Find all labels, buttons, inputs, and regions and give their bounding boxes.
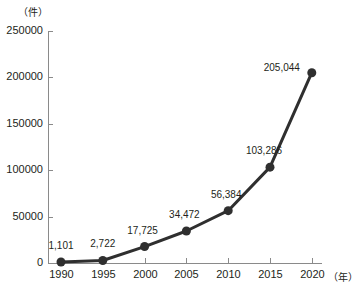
y-axis-tick-label: 150000 — [6, 117, 43, 129]
data-point-value-label: 56,384 — [211, 189, 242, 200]
y-axis-ticks: 050000100000150000200000250000 — [6, 24, 53, 268]
data-point-marker — [307, 68, 316, 77]
series-group — [57, 68, 317, 266]
data-point-value-label: 1,101 — [48, 240, 73, 251]
y-axis-tick-label: 0 — [37, 256, 43, 268]
x-axis-tick-label: 2005 — [174, 268, 198, 280]
x-axis-unit-label: （年） — [328, 271, 358, 283]
data-point-marker — [182, 227, 191, 236]
y-axis-tick-label: 50000 — [12, 210, 43, 222]
x-axis-tick-label: 2020 — [300, 268, 324, 280]
data-point-marker — [57, 257, 66, 266]
data-point-value-label: 17,725 — [127, 225, 158, 236]
series-markers — [57, 68, 317, 266]
y-axis-tick-label: 200000 — [6, 70, 43, 82]
x-axis-tick-label: 2015 — [258, 268, 282, 280]
y-axis-tick-label: 250000 — [6, 24, 43, 36]
data-point-value-label: 103,286 — [246, 145, 283, 156]
x-axis-tick-label: 1995 — [91, 268, 115, 280]
x-axis-tick-label: 2000 — [133, 268, 157, 280]
data-point-marker — [266, 163, 275, 172]
y-axis-group: 050000100000150000200000250000 — [6, 24, 53, 268]
data-point-marker — [98, 256, 107, 265]
y-axis-tick-label: 100000 — [6, 163, 43, 175]
data-point-value-label: 34,472 — [169, 209, 200, 220]
data-point-marker — [224, 206, 233, 215]
x-axis-tick-label: 2010 — [216, 268, 240, 280]
line-chart-figure: 050000100000150000200000250000 199019952… — [0, 0, 359, 301]
y-axis-unit-label: （件） — [18, 7, 48, 18]
x-axis-tick-label: 1990 — [49, 268, 73, 280]
data-point-marker — [140, 242, 149, 251]
data-point-labels: 1,1012,72217,72534,47256,384103,286205,0… — [48, 62, 300, 251]
data-point-value-label: 2,722 — [90, 238, 115, 249]
chart-canvas: 050000100000150000200000250000 199019952… — [0, 0, 359, 301]
data-point-value-label: 205,044 — [264, 62, 301, 73]
